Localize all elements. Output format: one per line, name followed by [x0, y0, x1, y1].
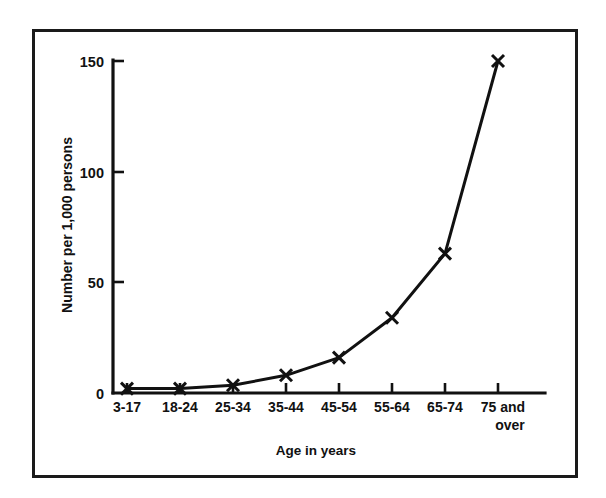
x-tick-label-over: over [495, 417, 525, 433]
x-tick-labels: 3-17 18-24 25-34 35-44 45-54 55-64 65-74… [113, 399, 525, 433]
series-markers [121, 55, 504, 395]
y-tick-label-50: 50 [88, 275, 104, 291]
x-tick-label-45-54: 45-54 [321, 399, 357, 415]
x-tick-label-3-17: 3-17 [113, 399, 141, 415]
y-tick-labels: 150 100 50 0 [80, 54, 104, 402]
data-point-55-64 [386, 312, 398, 324]
y-tick-label-150: 150 [80, 54, 104, 70]
y-axis-title: Number per 1,000 persons [59, 137, 75, 313]
y-tick-marks [113, 61, 124, 282]
x-tick-label-55-64: 55-64 [374, 399, 410, 415]
x-axis-title: Age in years [276, 443, 356, 458]
y-tick-label-100: 100 [80, 165, 104, 181]
figure-root: 150 100 50 0 Number per 1,000 persons 3-… [0, 0, 606, 498]
series-line-number-per-1000 [127, 61, 498, 389]
x-tick-label-35-44: 35-44 [268, 399, 304, 415]
x-tick-label-18-24: 18-24 [162, 399, 198, 415]
x-tick-label-65-74: 65-74 [427, 399, 463, 415]
line-chart: 150 100 50 0 Number per 1,000 persons 3-… [0, 0, 606, 498]
x-tick-label-25-34: 25-34 [215, 399, 251, 415]
y-tick-label-0: 0 [96, 386, 104, 402]
x-tick-label-75-and: 75 and [481, 399, 525, 415]
